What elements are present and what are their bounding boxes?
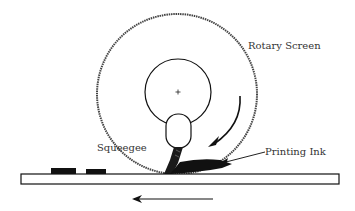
printing-ink-leader xyxy=(222,152,265,163)
substrate xyxy=(21,174,339,184)
rotation-arrow xyxy=(214,96,240,144)
printing-ink-label: Printing Ink xyxy=(265,147,326,157)
printed-block-1 xyxy=(51,168,76,174)
squeegee-label: Squeegee xyxy=(97,143,147,153)
rotary-screen-label: Rotary Screen xyxy=(248,41,321,51)
rotary-screen-printing-diagram xyxy=(0,0,355,211)
squeegee-holder xyxy=(166,114,191,148)
printed-block-2 xyxy=(86,169,106,174)
